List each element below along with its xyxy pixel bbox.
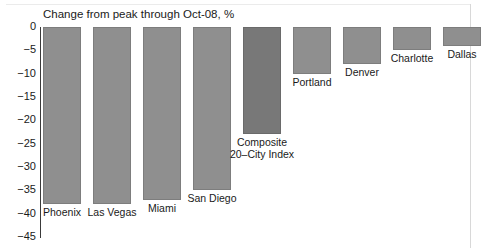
chart-title: Change from peak through Oct-08, % [43,8,234,21]
bar-san-diego [193,27,231,190]
y-tick-neg10: −10 [0,68,36,79]
y-tick-label: −35 [6,184,36,195]
bar-label-line: 20–City Index [217,148,307,160]
bar-label-line: Dallas [417,48,485,60]
bar-label-line: Denver [317,66,407,78]
y-tick-label: 0 [6,21,36,32]
y-tick-neg35: −35 [0,184,36,195]
bar-label-san-diego: San Diego [167,192,257,204]
bar-miami [143,27,181,200]
bar-label-line: Composite [217,136,307,148]
y-tick-label: −5 [6,44,36,55]
bar-label-line: San Diego [167,192,257,204]
bar-label-denver: Denver [317,66,407,78]
bar-label-dallas: Dallas [417,48,485,60]
y-tick-neg45: −45 [0,231,36,242]
y-tick-0: 0 [0,21,36,32]
bar-las-vegas [93,27,131,204]
y-tick-neg25: −25 [0,138,36,149]
y-tick-neg15: −15 [0,91,36,102]
y-tick-neg30: −30 [0,161,36,172]
y-tick-label: −20 [6,114,36,125]
y-tick-neg20: −20 [0,114,36,125]
y-tick-label: −25 [6,138,36,149]
y-tick-neg5: −5 [0,44,36,55]
y-tick-label: −10 [6,68,36,79]
bar-label-composite-20-city-index: Composite20–City Index [217,136,307,160]
bar-dallas [443,27,481,46]
y-tick-label: −15 [6,91,36,102]
y-tick-label: −45 [6,231,36,242]
bar-phoenix [43,27,81,204]
y-tick-label: −30 [6,161,36,172]
